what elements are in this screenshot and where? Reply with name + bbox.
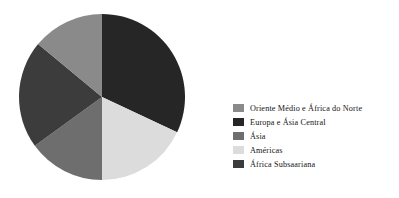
legend-swatch-icon [233, 146, 244, 154]
pie-chart-graphic [0, 0, 210, 198]
legend-swatch-icon [233, 104, 244, 112]
legend-swatch-icon [233, 118, 244, 126]
legend-item-oriente-medio-e-africa-do-norte[interactable]: Oriente Médio e África do Norte [233, 101, 399, 115]
legend-item-africa-subsaariana[interactable]: África Subsaariana [233, 157, 399, 171]
legend-item-label: Américas [250, 146, 283, 155]
legend-item-label: Oriente Médio e África do Norte [250, 104, 362, 113]
legend-item-asia[interactable]: Ásia [233, 129, 399, 143]
legend-item-americas[interactable]: Américas [233, 143, 399, 157]
legend-item-label: Europa e Ásia Central [250, 118, 326, 127]
chart-legend: Oriente Médio e África do Norte Europa e… [233, 101, 399, 171]
pie-slices [19, 14, 185, 180]
legend-swatch-icon [233, 160, 244, 168]
legend-item-europa-e-asia-central[interactable]: Europa e Ásia Central [233, 115, 399, 129]
pie-chart-figure: Oriente Médio e África do Norte Europa e… [0, 0, 399, 198]
legend-item-label: África Subsaariana [250, 160, 315, 169]
legend-item-label: Ásia [250, 132, 266, 141]
legend-swatch-icon [233, 132, 244, 140]
